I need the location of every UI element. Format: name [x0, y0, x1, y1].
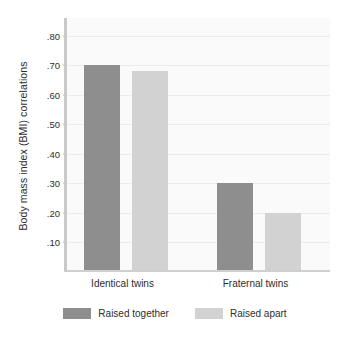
x-axis-baseline — [67, 270, 330, 272]
bar — [217, 183, 253, 272]
legend-label: Raised together — [98, 308, 169, 319]
chart-figure: Body mass index (BMI) correlations .80.7… — [0, 0, 350, 343]
plot-area — [64, 18, 330, 272]
bar — [132, 71, 168, 272]
legend-label: Raised apart — [230, 308, 287, 319]
legend-entry[interactable]: Raised together — [63, 308, 169, 319]
y-axis-tick-label: .80 — [47, 30, 60, 41]
legend-swatch — [63, 308, 91, 319]
bar — [265, 213, 301, 272]
x-axis-category-label: Fraternal twins — [223, 278, 289, 289]
y-axis-tick-label: .70 — [47, 60, 60, 71]
y-axis-tick-label: .50 — [47, 119, 60, 130]
y-axis-tick-label: .10 — [47, 237, 60, 248]
x-axis-category-labels: Identical twinsFraternal twins — [64, 278, 330, 296]
y-axis-tick-labels: .80.70.60.50.40.30.20.10 — [30, 18, 60, 272]
y-axis-title-label: Body mass index (BMI) correlations — [17, 61, 29, 230]
legend-entry[interactable]: Raised apart — [195, 308, 287, 319]
x-axis-category-label: Identical twins — [91, 278, 154, 289]
legend-swatch — [195, 308, 223, 319]
y-axis-tick-label: .40 — [47, 148, 60, 159]
bar — [84, 65, 120, 272]
y-axis-tick-label: .30 — [47, 178, 60, 189]
y-axis-tick-label: .60 — [47, 89, 60, 100]
y-axis-tick-label: .20 — [47, 207, 60, 218]
chart-legend: Raised togetherRaised apart — [0, 308, 350, 319]
bar-series-container — [67, 18, 330, 272]
